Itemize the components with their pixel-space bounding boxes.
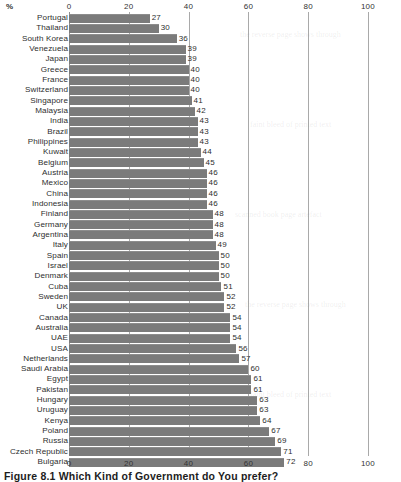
bar: [69, 385, 251, 394]
axis-bottom-tick: 100: [361, 459, 375, 468]
bar: [69, 65, 189, 74]
bar-value-label: 50: [221, 271, 230, 281]
bar: [69, 406, 257, 415]
bar-value-label: 40: [191, 85, 200, 95]
bar-value-label: 27: [152, 13, 161, 23]
axis-top-tick: 100: [361, 2, 375, 11]
bar-row: South Korea36: [0, 34, 401, 44]
bar: [69, 96, 192, 105]
figure-caption: Figure 8.1 Which Kind of Government do Y…: [4, 470, 398, 482]
bar-category-label: Malaysia: [35, 106, 68, 116]
bar: [69, 189, 207, 198]
bar-category-label: USA: [51, 344, 68, 354]
bar-value-label: 46: [209, 168, 218, 178]
bar-value-label: 36: [179, 34, 188, 44]
bar-category-label: Mexico: [42, 178, 68, 188]
bar: [69, 437, 275, 446]
bar-category-label: Sweden: [38, 292, 68, 302]
bar-row: China46: [0, 189, 401, 199]
bar-row: Austria46: [0, 168, 401, 178]
bar-row: Spain50: [0, 251, 401, 261]
bar-category-label: Spain: [47, 251, 68, 261]
bar-row: Uruguay63: [0, 405, 401, 415]
bar-category-label: Netherlands: [23, 354, 68, 364]
bar-value-label: 30: [161, 23, 170, 33]
bar-row: Philippines43: [0, 137, 401, 147]
bar-value-label: 46: [209, 178, 218, 188]
bar: [69, 272, 219, 281]
bar-row: Sweden52: [0, 292, 401, 302]
bar-category-label: Singapore: [30, 96, 68, 106]
bar-category-label: Saudi Arabia: [21, 364, 68, 374]
bar-category-label: India: [50, 116, 68, 126]
bar-row: Germany48: [0, 220, 401, 230]
bar: [69, 261, 219, 270]
bar: [69, 251, 219, 260]
axis-top-tick: 60: [244, 2, 254, 11]
bar: [69, 427, 269, 436]
bar-value-label: 40: [191, 75, 200, 85]
bar-value-label: 54: [232, 333, 241, 343]
bar-category-label: Switzerland: [25, 85, 68, 95]
bar-value-label: 52: [226, 302, 235, 312]
bar-value-label: 50: [221, 261, 230, 271]
bar-value-label: 63: [259, 405, 268, 415]
bar-value-label: 61: [253, 374, 262, 384]
bar-value-label: 40: [191, 65, 200, 75]
axis-top-tick: 40: [184, 2, 194, 11]
bar-row: Hungary63: [0, 395, 401, 405]
bar-category-label: China: [46, 189, 68, 199]
bar-value-label: 69: [277, 436, 286, 446]
bar: [69, 138, 198, 147]
bar: [69, 127, 198, 136]
bar-value-label: 39: [188, 54, 197, 64]
bar: [69, 210, 213, 219]
bar-row: Belgium45: [0, 158, 401, 168]
bar: [69, 375, 251, 384]
bar-row: Denmark50: [0, 271, 401, 281]
bar-value-label: 48: [215, 209, 224, 219]
bar-row: Italy49: [0, 240, 401, 250]
bar-row: Russia69: [0, 436, 401, 446]
bar: [69, 416, 260, 425]
bar-category-label: Israel: [48, 261, 68, 271]
bar-category-label: Greece: [41, 65, 68, 75]
bar-row: Argentina48: [0, 230, 401, 240]
bar-category-label: Thailand: [36, 23, 68, 33]
bar-row: USA56: [0, 344, 401, 354]
bar-value-label: 46: [209, 199, 218, 209]
bar-category-label: South Korea: [22, 34, 68, 44]
bar-row: Portugal27: [0, 13, 401, 23]
bar-row: Australia54: [0, 323, 401, 333]
bar-value-label: 60: [250, 364, 259, 374]
bar: [69, 45, 186, 54]
bar-value-label: 45: [206, 158, 215, 168]
bar-category-label: Poland: [42, 426, 68, 436]
bar-value-label: 39: [188, 44, 197, 54]
bar-value-label: 50: [221, 251, 230, 261]
bar: [69, 117, 198, 126]
bar-category-label: Cuba: [48, 282, 68, 292]
bar-row: Brazil43: [0, 127, 401, 137]
axis-bottom-tick: 40: [184, 459, 194, 468]
bar-category-label: Brazil: [47, 127, 68, 137]
bar-row: Singapore41: [0, 96, 401, 106]
bar-category-label: Portugal: [37, 13, 68, 23]
bar-row: Thailand30: [0, 23, 401, 33]
bar: [69, 334, 230, 343]
bar-row: Saudi Arabia60: [0, 364, 401, 374]
bar-category-label: Australia: [36, 323, 68, 333]
bar-value-label: 42: [197, 106, 206, 116]
bar-category-label: Uruguay: [37, 405, 68, 415]
bar-value-label: 43: [200, 137, 209, 147]
bar-row: Netherlands57: [0, 354, 401, 364]
bar-category-label: Japan: [45, 54, 68, 64]
bar: [69, 303, 224, 312]
bar-category-label: Venezuela: [29, 44, 68, 54]
axis-top-tick: 20: [124, 2, 134, 11]
bar-row: Greece40: [0, 65, 401, 75]
bar: [69, 396, 257, 405]
bar-row: Israel50: [0, 261, 401, 271]
bar-value-label: 52: [226, 292, 235, 302]
bar-category-label: Canada: [39, 313, 68, 323]
